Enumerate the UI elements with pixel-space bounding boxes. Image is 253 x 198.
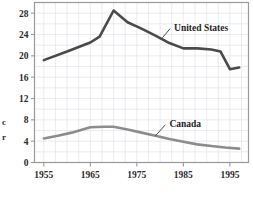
y-axis-title-fragment: c [2, 117, 6, 127]
x-tick-label: 1955 [34, 170, 53, 180]
y-tick-label: 24 [19, 30, 29, 40]
y-tick-label: 4 [24, 137, 29, 147]
y-tick-label: 0 [24, 158, 29, 168]
chart-container: 0481216202428 19551965197519851995 Unite… [0, 0, 253, 198]
x-tick-label: 1965 [81, 170, 100, 180]
y-tick-label: 20 [19, 51, 29, 61]
x-tick-label: 1995 [220, 170, 239, 180]
series-label-united-states: United States [174, 23, 228, 33]
x-tick-label: 1985 [174, 170, 193, 180]
line-chart: 0481216202428 19551965197519851995 Unite… [0, 0, 253, 198]
y-tick-label: 8 [24, 115, 29, 125]
y-axis-title-fragment: r [2, 132, 6, 142]
series-label-canada: Canada [169, 119, 201, 129]
y-tick-label: 28 [19, 9, 29, 19]
y-tick-label: 12 [19, 94, 29, 104]
y-tick-label: 16 [19, 73, 29, 83]
x-tick-label: 1975 [127, 170, 146, 180]
